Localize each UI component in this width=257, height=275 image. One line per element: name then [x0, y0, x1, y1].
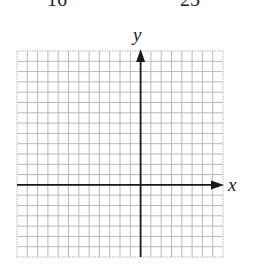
x-axis-label: x: [228, 175, 236, 194]
grid-lines: [17, 51, 223, 257]
x-axis-arrow-icon: [211, 180, 224, 189]
coordinate-grid: [0, 0, 257, 275]
y-axis-label: y: [133, 25, 141, 44]
